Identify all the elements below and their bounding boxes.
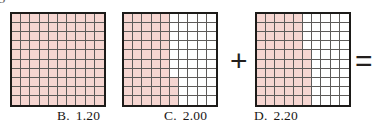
grid-cell: [95, 78, 104, 87]
grid-cell: [142, 60, 151, 69]
grid-cell: [152, 14, 161, 23]
grid-cell: [40, 23, 49, 32]
grid-cell: [303, 14, 312, 23]
grid-cell: [198, 14, 207, 23]
grid-square-2-cells: [124, 14, 216, 105]
answer-choice-c[interactable]: C.2.00: [164, 108, 207, 124]
grid-cell: [142, 96, 151, 105]
grid-cell: [49, 69, 58, 78]
grid-cell: [49, 87, 58, 96]
grid-cell: [312, 60, 321, 69]
grid-cell: [67, 60, 76, 69]
grid-cell: [170, 14, 179, 23]
grid-cell: [142, 32, 151, 41]
grid-cell: [142, 50, 151, 59]
grid-cell: [285, 87, 294, 96]
grid-cell: [76, 78, 85, 87]
grid-cell: [40, 69, 49, 78]
grid-cell: [331, 96, 340, 105]
grid-cell: [76, 60, 85, 69]
grid-cell: [179, 41, 188, 50]
grid-cell: [331, 87, 340, 96]
grid-cell: [67, 96, 76, 105]
grid-cell: [285, 96, 294, 105]
grid-cell: [340, 32, 349, 41]
grid-cell: [285, 14, 294, 23]
grid-cell: [170, 32, 179, 41]
grid-cell: [331, 23, 340, 32]
grid-cell: [285, 32, 294, 41]
grid-cell: [312, 14, 321, 23]
grid-cell: [40, 60, 49, 69]
grid-cell: [303, 87, 312, 96]
grid-cell: [321, 87, 330, 96]
grid-cell: [303, 96, 312, 105]
grid-square-2: [122, 12, 218, 107]
grid-cell: [124, 23, 133, 32]
grid-cell: [294, 14, 303, 23]
grid-cell: [21, 78, 30, 87]
grid-cell: [152, 96, 161, 105]
grid-cell: [275, 14, 284, 23]
grid-cell: [58, 60, 67, 69]
grid-cell: [207, 60, 216, 69]
grid-square-1: [10, 12, 106, 107]
grid-cell: [207, 78, 216, 87]
grid-square-1-cells: [12, 14, 104, 105]
grid-cell: [133, 50, 142, 59]
grid-cell: [170, 23, 179, 32]
grid-cell: [76, 69, 85, 78]
grid-cell: [179, 50, 188, 59]
grid-cell: [294, 41, 303, 50]
answer-choice-b[interactable]: B.1.20: [57, 108, 100, 124]
grid-square-3: [255, 12, 351, 107]
grid-cell: [207, 50, 216, 59]
equals-sign-icon: =: [355, 46, 373, 76]
grid-cell: [30, 41, 39, 50]
grid-cell: [303, 41, 312, 50]
grid-cell: [95, 23, 104, 32]
grid-cell: [67, 14, 76, 23]
grid-cell: [170, 87, 179, 96]
grid-cell: [76, 14, 85, 23]
grid-cell: [142, 14, 151, 23]
grid-cell: [58, 14, 67, 23]
grid-cell: [12, 96, 21, 105]
grid-cell: [170, 69, 179, 78]
grid-cell: [312, 23, 321, 32]
grid-cell: [30, 96, 39, 105]
grid-cell: [133, 87, 142, 96]
grid-cell: [331, 60, 340, 69]
grid-cell: [188, 69, 197, 78]
grid-cell: [312, 32, 321, 41]
grid-cell: [161, 69, 170, 78]
grid-cell: [142, 41, 151, 50]
grid-cell: [124, 60, 133, 69]
grid-cell: [86, 41, 95, 50]
grid-cell: [86, 96, 95, 105]
grid-cell: [21, 96, 30, 105]
grid-cell: [161, 41, 170, 50]
grid-cell: [133, 14, 142, 23]
grid-cell: [161, 14, 170, 23]
grid-cell: [152, 41, 161, 50]
grid-cell: [312, 87, 321, 96]
grid-cell: [285, 41, 294, 50]
grid-cell: [331, 14, 340, 23]
grid-cell: [257, 96, 266, 105]
grid-cell: [95, 50, 104, 59]
grid-cell: [312, 50, 321, 59]
grid-cell: [198, 69, 207, 78]
grid-cell: [275, 23, 284, 32]
grid-cell: [133, 60, 142, 69]
answer-choice-c-value: 2.00: [183, 108, 207, 123]
grid-cell: [340, 78, 349, 87]
grid-cell: [266, 60, 275, 69]
answer-choice-d[interactable]: D.2.20: [254, 108, 298, 124]
grid-cell: [30, 60, 39, 69]
grid-cell: [58, 23, 67, 32]
grid-cell: [266, 14, 275, 23]
grid-cell: [40, 50, 49, 59]
grid-cell: [294, 60, 303, 69]
grid-cell: [331, 50, 340, 59]
